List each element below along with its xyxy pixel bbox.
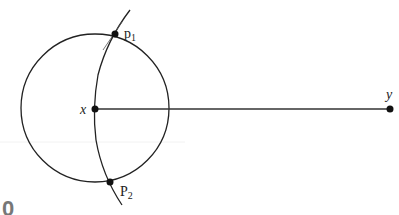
cropped-glyph: 0 (2, 196, 14, 215)
label-x: x (79, 102, 87, 117)
label-p2: P2 (120, 184, 133, 201)
point-y (387, 106, 394, 113)
point-p1 (112, 31, 119, 38)
geometry-diagram: x y p1 P2 0 (0, 0, 399, 215)
point-p2 (107, 179, 114, 186)
label-p1: p1 (124, 26, 136, 43)
point-x (92, 106, 99, 113)
label-y: y (384, 87, 393, 102)
